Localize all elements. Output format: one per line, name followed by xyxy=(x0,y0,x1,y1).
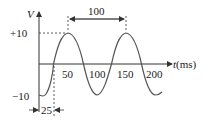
y-axis-label: V xyxy=(27,8,35,20)
offset-label: 25 xyxy=(41,104,53,116)
x-axis-label: t(ms) xyxy=(173,58,197,71)
y-tick-plus10: +10 xyxy=(10,27,28,39)
x-tick-50: 50 xyxy=(62,68,74,80)
x-tick-200: 200 xyxy=(146,68,163,80)
waveform-diagram: V t(ms) +10 −10 50 100 150 200 100 25 xyxy=(0,0,204,126)
y-tick-minus10: −10 xyxy=(12,90,30,102)
x-tick-100: 100 xyxy=(89,68,106,80)
x-tick-150: 150 xyxy=(117,68,134,80)
period-label: 100 xyxy=(88,5,105,17)
